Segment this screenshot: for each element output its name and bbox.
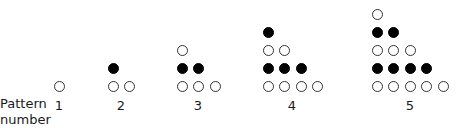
filled-circle-icon — [108, 63, 119, 74]
open-circle-icon — [421, 81, 432, 92]
filled-circle-icon — [296, 63, 307, 74]
open-circle-icon — [124, 81, 135, 92]
pattern-number-label: 2 — [111, 98, 131, 113]
open-circle-icon — [372, 9, 383, 20]
open-circle-icon — [108, 81, 119, 92]
pattern-number-label: 5 — [400, 98, 420, 113]
open-circle-icon — [405, 81, 416, 92]
pattern-number-label: 4 — [282, 98, 302, 113]
filled-circle-icon — [279, 63, 290, 74]
filled-circle-icon — [421, 63, 432, 74]
open-circle-icon — [438, 81, 449, 92]
axis-label-line2: number — [0, 112, 51, 127]
filled-circle-icon — [405, 63, 416, 74]
open-circle-icon — [312, 81, 323, 92]
filled-circle-icon — [263, 63, 274, 74]
open-circle-icon — [296, 81, 307, 92]
filled-circle-icon — [193, 63, 204, 74]
filled-circle-icon — [372, 27, 383, 38]
pattern-diagram: Pattern number 12345 — [0, 0, 458, 128]
open-circle-icon — [210, 81, 221, 92]
open-circle-icon — [279, 45, 290, 56]
open-circle-icon — [405, 45, 416, 56]
pattern-number-label: 3 — [188, 98, 208, 113]
pattern-number-label: 1 — [49, 98, 69, 113]
open-circle-icon — [177, 81, 188, 92]
filled-circle-icon — [263, 27, 274, 38]
filled-circle-icon — [372, 63, 383, 74]
open-circle-icon — [372, 45, 383, 56]
filled-circle-icon — [388, 63, 399, 74]
filled-circle-icon — [388, 27, 399, 38]
open-circle-icon — [263, 81, 274, 92]
axis-label-line1: Pattern — [0, 96, 47, 111]
open-circle-icon — [193, 81, 204, 92]
open-circle-icon — [54, 81, 65, 92]
open-circle-icon — [263, 45, 274, 56]
open-circle-icon — [372, 81, 383, 92]
open-circle-icon — [177, 45, 188, 56]
open-circle-icon — [388, 81, 399, 92]
filled-circle-icon — [177, 63, 188, 74]
open-circle-icon — [388, 45, 399, 56]
open-circle-icon — [279, 81, 290, 92]
